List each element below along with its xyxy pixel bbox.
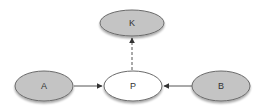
node-k-label: K <box>129 18 135 28</box>
diagram-canvas: K A P B <box>0 0 263 112</box>
node-a-label: A <box>41 81 47 91</box>
node-b-label: B <box>218 81 224 91</box>
node-p-label: P <box>130 81 136 91</box>
